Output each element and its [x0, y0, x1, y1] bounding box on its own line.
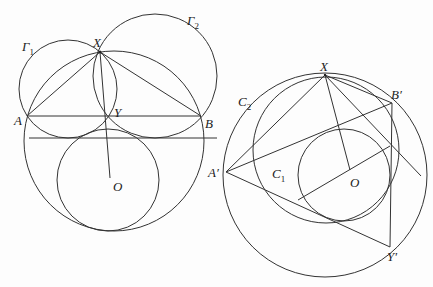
label-Y: Y [114, 106, 121, 119]
circle-outer-left [24, 51, 204, 231]
circle-gamma2 [93, 14, 217, 138]
label-O-left: O [113, 180, 122, 193]
label-gamma2: Γ2 [187, 14, 199, 31]
segment-XB-prime [325, 75, 392, 103]
segment-XA [27, 52, 100, 116]
circle-inner-left [57, 129, 159, 231]
label-B-prime: B′ [391, 88, 402, 101]
label-gamma1: Γ1 [22, 40, 34, 57]
segment-XO [100, 52, 110, 178]
circle-C1 [298, 129, 390, 221]
segment-A-prime-B-prime [226, 103, 392, 172]
point-X-right [324, 74, 326, 76]
label-A-prime: A′ [208, 166, 219, 179]
label-X-left: X [93, 36, 101, 49]
circle-C2 [253, 77, 399, 223]
label-C1: C1 [272, 167, 285, 184]
label-B: B [205, 117, 213, 130]
label-O-right: O [350, 176, 359, 189]
segment-A-prime-Y-prime [226, 172, 390, 247]
circle-outer-right [223, 73, 427, 277]
point-X-left [99, 51, 102, 54]
label-C2: C2 [238, 95, 251, 112]
segment-O-tangent [298, 146, 390, 200]
segment-X-right [325, 75, 421, 176]
segment-XA-prime [226, 75, 325, 172]
label-Y-prime: Y′ [387, 250, 397, 263]
label-X-right: X [320, 60, 328, 73]
geometry-diagram: Γ1 Γ2 X Y A B O X B′ A′ Y′ C2 C1 O [0, 0, 433, 287]
label-A: A [14, 114, 22, 127]
diagram-svg [0, 0, 433, 287]
